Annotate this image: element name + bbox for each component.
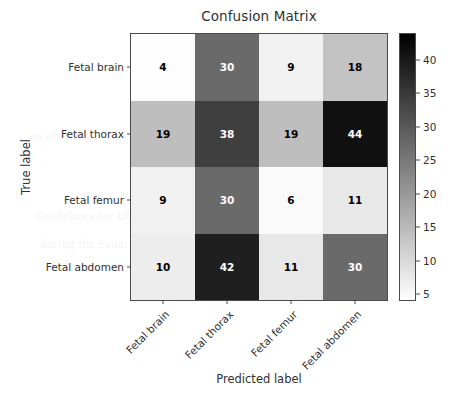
y-tick-label-fetal-thorax: Fetal thorax: [61, 128, 124, 140]
cell-value: 44: [348, 129, 363, 140]
heatmap-cell: 18: [323, 34, 387, 101]
heatmap-grid: 4 30 9 18 19 38 19 44 9 30 6 11 10 42 11…: [131, 34, 387, 300]
heatmap-cell: 9: [131, 167, 195, 234]
colorbar-tick-mark: [416, 126, 420, 127]
cell-value: 4: [159, 62, 166, 73]
cell-value: 30: [220, 62, 235, 73]
cell-value: 9: [159, 195, 166, 206]
confusion-matrix-figure: complete a discharge sound imaging an ob…: [0, 0, 454, 402]
colorbar-tick-label: 30: [423, 121, 436, 133]
cell-value: 30: [220, 195, 235, 206]
cell-value: 11: [284, 262, 299, 273]
heatmap-axes: 4 30 9 18 19 38 19 44 9 30 6 11 10 42 11…: [130, 33, 388, 301]
colorbar-tick-mark: [416, 93, 420, 94]
cell-value: 19: [284, 129, 299, 140]
x-tick-label-fetal-femur: Fetal femur: [249, 308, 300, 359]
y-tick-label-fetal-brain: Fetal brain: [68, 61, 124, 73]
colorbar: 510152025303540: [399, 33, 416, 301]
x-tick-label-fetal-brain: Fetal brain: [124, 308, 172, 356]
heatmap-cell: 30: [195, 34, 259, 101]
x-tick-mark: [355, 300, 356, 304]
heatmap-cell: 11: [259, 234, 323, 301]
x-tick-mark: [227, 300, 228, 304]
heatmap-cell: 30: [323, 234, 387, 301]
heatmap-cell: 19: [131, 101, 195, 168]
colorbar-tick-mark: [416, 59, 420, 60]
x-axis-label: Predicted label: [130, 372, 388, 386]
y-tick-label-fetal-abdomen: Fetal abdomen: [46, 261, 124, 273]
colorbar-tick-label: 15: [423, 221, 436, 233]
x-tick-mark: [163, 300, 164, 304]
cell-value: 30: [348, 262, 363, 273]
x-tick-mark: [291, 300, 292, 304]
colorbar-tick-mark: [416, 193, 420, 194]
y-tick-mark: [127, 133, 131, 134]
colorbar-tick-mark: [416, 294, 420, 295]
y-axis-label: True label: [19, 139, 33, 195]
cell-value: 19: [156, 129, 171, 140]
heatmap-cell: 38: [195, 101, 259, 168]
heatmap-cell: 10: [131, 234, 195, 301]
colorbar-tick-label: 25: [423, 154, 436, 166]
heatmap-cell: 30: [195, 167, 259, 234]
heatmap-cell: 4: [131, 34, 195, 101]
colorbar-gradient: [399, 33, 416, 301]
heatmap-cell: 19: [259, 101, 323, 168]
colorbar-tick-mark: [416, 227, 420, 228]
heatmap-cell: 42: [195, 234, 259, 301]
colorbar-tick-label: 20: [423, 188, 436, 200]
colorbar-tick-mark: [416, 160, 420, 161]
cell-value: 38: [220, 129, 235, 140]
x-tick-label-fetal-thorax: Fetal thorax: [183, 308, 236, 361]
colorbar-tick-label: 40: [423, 54, 436, 66]
cell-value: 6: [287, 195, 294, 206]
cell-value: 10: [156, 262, 171, 273]
colorbar-tick-label: 5: [423, 288, 430, 300]
y-tick-mark: [127, 200, 131, 201]
cell-value: 11: [348, 195, 363, 206]
cell-value: 18: [348, 62, 363, 73]
heatmap-cell: 9: [259, 34, 323, 101]
chart-title: Confusion Matrix: [130, 8, 388, 24]
y-tick-label-fetal-femur: Fetal femur: [64, 194, 124, 206]
y-tick-mark: [127, 266, 131, 267]
background-bleed-text: during the exam: [40, 236, 127, 252]
colorbar-tick-mark: [416, 260, 420, 261]
cell-value: 9: [287, 62, 294, 73]
heatmap-cell: 6: [259, 167, 323, 234]
x-tick-label-fetal-abdomen: Fetal abdomen: [300, 308, 364, 372]
heatmap-cell: 44: [323, 101, 387, 168]
colorbar-tick-label: 10: [423, 255, 436, 267]
colorbar-tick-label: 35: [423, 87, 436, 99]
heatmap-cell: 11: [323, 167, 387, 234]
y-tick-mark: [127, 67, 131, 68]
cell-value: 42: [220, 262, 235, 273]
